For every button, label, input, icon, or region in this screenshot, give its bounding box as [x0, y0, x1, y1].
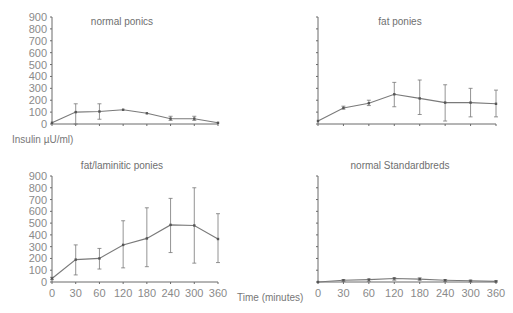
data-point	[495, 280, 497, 282]
y-tick-label: 700	[29, 194, 47, 206]
x-tick-label: 180	[138, 287, 156, 299]
data-point	[217, 238, 219, 240]
y-tick-label: 0	[41, 118, 47, 130]
data-point	[469, 280, 471, 282]
panel-title: normal ponics	[91, 16, 153, 27]
data-point	[146, 112, 148, 114]
x-tick-label: 240	[161, 287, 179, 299]
x-tick-label: 120	[114, 287, 132, 299]
data-point	[193, 224, 195, 226]
chart-panel-3: normal Standardbreds03060120180240300360	[315, 160, 505, 299]
panel-title: normal Standardbreds	[351, 160, 450, 171]
data-point	[444, 279, 446, 281]
y-tick-label: 100	[29, 264, 47, 276]
y-tick-label: 900	[29, 170, 47, 182]
data-point	[146, 237, 148, 239]
data-point	[75, 111, 77, 113]
y-tick-label: 400	[29, 70, 47, 82]
data-point	[342, 279, 344, 281]
y-tick-label: 100	[29, 106, 47, 118]
x-axis-label: Time (minutes)	[237, 292, 303, 303]
y-axis-label: Insulin µU/ml)	[12, 134, 73, 145]
insulin-figure: Insulin µU/ml) Time (minutes) normal pon…	[0, 0, 513, 313]
data-point	[122, 244, 124, 246]
x-tick-label: 360	[487, 287, 505, 299]
x-tick-label: 60	[363, 287, 375, 299]
data-point	[444, 101, 446, 103]
panel-title: fat/laminitic ponies	[81, 160, 163, 171]
data-point	[98, 110, 100, 112]
series-line	[52, 225, 218, 279]
data-point	[51, 277, 53, 279]
y-tick-label: 0	[41, 276, 47, 288]
data-point	[419, 97, 421, 99]
chart-panel-0: normal ponics010020030040050060070080090…	[29, 11, 220, 130]
data-point	[368, 278, 370, 280]
x-tick-label: 300	[461, 287, 479, 299]
data-point	[217, 122, 219, 124]
x-tick-label: 180	[411, 287, 429, 299]
data-point	[193, 117, 195, 119]
y-tick-label: 200	[29, 94, 47, 106]
y-tick-label: 300	[29, 82, 47, 94]
data-point	[51, 122, 53, 124]
data-point	[342, 107, 344, 109]
data-point	[98, 257, 100, 259]
y-tick-label: 900	[29, 11, 47, 23]
panel-title: fat ponies	[378, 16, 421, 27]
data-point	[317, 120, 319, 122]
data-point	[495, 103, 497, 105]
x-tick-label: 30	[337, 287, 349, 299]
data-point	[122, 109, 124, 111]
data-point	[393, 93, 395, 95]
data-point	[368, 102, 370, 104]
x-tick-label: 240	[436, 287, 454, 299]
data-point	[469, 101, 471, 103]
x-tick-label: 360	[209, 287, 227, 299]
x-tick-label: 0	[315, 287, 321, 299]
data-point	[75, 258, 77, 260]
y-tick-label: 600	[29, 205, 47, 217]
x-tick-label: 0	[49, 287, 55, 299]
data-point	[393, 277, 395, 279]
y-tick-label: 600	[29, 47, 47, 59]
y-tick-label: 800	[29, 182, 47, 194]
x-tick-label: 120	[385, 287, 403, 299]
chart-panel-2: fat/laminitic ponies01002003004005006007…	[29, 160, 228, 299]
data-point	[169, 224, 171, 226]
data-point	[419, 278, 421, 280]
data-point	[169, 117, 171, 119]
x-tick-label: 30	[70, 287, 82, 299]
y-tick-label: 800	[29, 23, 47, 35]
x-tick-label: 300	[185, 287, 203, 299]
chart-panel-1: fat ponies	[316, 16, 498, 126]
y-tick-label: 300	[29, 241, 47, 253]
y-tick-label: 200	[29, 252, 47, 264]
data-point	[317, 281, 319, 283]
y-tick-label: 500	[29, 59, 47, 71]
y-tick-label: 400	[29, 229, 47, 241]
x-tick-label: 60	[93, 287, 105, 299]
y-tick-label: 500	[29, 217, 47, 229]
y-tick-label: 700	[29, 35, 47, 47]
